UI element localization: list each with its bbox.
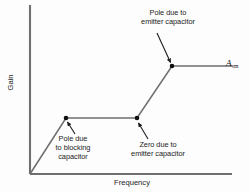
y-axis-label: Gain — [6, 60, 15, 106]
marker-pole-blocking — [64, 116, 69, 121]
midband-gain-label: Avm — [226, 58, 238, 69]
arrow-pole-emitter — [157, 33, 171, 63]
marker-zero-emitter — [135, 116, 140, 121]
annotation-pole-emitter-capacitor: Pole due to emitter capacitor — [122, 8, 214, 26]
plot-canvas — [0, 0, 250, 193]
annotation-pole-blocking-capacitor: Pole due to blocking capacitor — [40, 134, 106, 162]
breakpoint-markers — [64, 64, 175, 121]
marker-pole-emitter — [170, 64, 175, 69]
x-axis-label: Frequency — [92, 178, 172, 187]
annotation-zero-emitter-capacitor: Zero due to emitter capacitor — [112, 140, 204, 158]
arrow-pole-blocking — [68, 122, 76, 134]
figure-gain-vs-frequency: Pole due to emitter capacitor Pole due t… — [0, 0, 250, 193]
annotation-arrows — [68, 33, 171, 139]
midband-gain-subscript: vm — [232, 63, 239, 69]
arrow-zero-emitter — [139, 123, 149, 139]
